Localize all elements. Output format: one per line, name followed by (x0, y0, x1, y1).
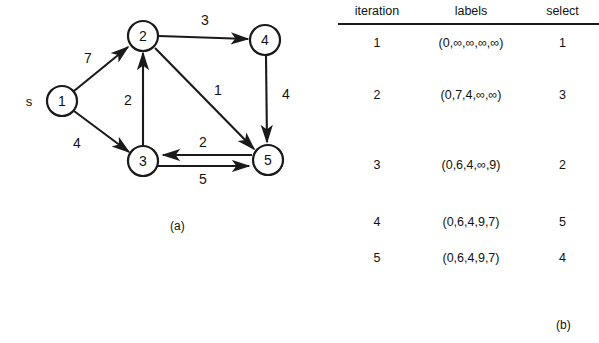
table-row: 3 (0,6,4,∞,9) 2 (338, 130, 599, 200)
cell-select: 3 (526, 60, 599, 130)
graph-node-1[interactable]: 1 (47, 86, 77, 116)
graph-node-4-label: 4 (261, 32, 269, 48)
edge-4-to-5 (266, 56, 267, 142)
table-header-row: iteration labels select (338, 4, 599, 24)
directed-graph-diagram: 1 2 3 4 5 7 4 2 3 1 4 (0, 0, 310, 215)
graph-node-5-label: 5 (264, 152, 272, 168)
table-head: iteration labels select (338, 4, 599, 24)
table-row: 2 (0,7,4,∞,∞) 3 (338, 60, 599, 130)
edge-1-to-2 (74, 47, 128, 91)
cell-labels: (0,6,4,9,7) (416, 200, 526, 243)
figure-b-caption: (b) (556, 318, 571, 332)
cell-labels: (0,7,4,∞,∞) (416, 60, 526, 130)
column-header-labels: labels (416, 4, 526, 24)
cell-labels: (0,6,4,9,7) (416, 243, 526, 273)
cell-iteration: 4 (338, 200, 416, 243)
cell-iteration: 2 (338, 60, 416, 130)
table-row: 1 (0,∞,∞,∞,∞) 1 (338, 24, 599, 60)
edge-weight-3-5: 5 (199, 171, 207, 187)
edge-weight-3-2: 2 (124, 92, 132, 108)
edge-weight-2-4: 3 (201, 12, 209, 28)
graph-node-2[interactable]: 2 (128, 21, 158, 51)
cell-iteration: 5 (338, 243, 416, 273)
graph-edges-layer (74, 36, 267, 166)
edge-1-to-3 (74, 111, 129, 152)
graph-figure-panel: 1 2 3 4 5 7 4 2 3 1 4 (0, 0, 310, 343)
graph-node-5[interactable]: 5 (253, 145, 283, 175)
table-body: 1 (0,∞,∞,∞,∞) 1 2 (0,7,4,∞,∞) 3 3 (0,6,4… (338, 24, 599, 273)
edge-weight-2-5: 1 (214, 82, 222, 98)
iteration-table-panel: iteration labels select 1 (0,∞,∞,∞,∞) 1 … (311, 0, 599, 343)
edge-weight-5-3: 2 (199, 134, 207, 150)
cell-select: 2 (526, 130, 599, 200)
graph-nodes-layer: 1 2 3 4 5 (47, 21, 283, 176)
cell-iteration: 1 (338, 24, 416, 60)
cell-labels: (0,∞,∞,∞,∞) (416, 24, 526, 60)
source-node-tag: s (26, 94, 33, 109)
table-row: 4 (0,6,4,9,7) 5 (338, 200, 599, 243)
cell-select: 5 (526, 200, 599, 243)
graph-node-1-label: 1 (58, 93, 66, 109)
cell-select: 4 (526, 243, 599, 273)
dijkstra-iteration-table: iteration labels select 1 (0,∞,∞,∞,∞) 1 … (338, 4, 599, 273)
edge-2-to-4 (159, 36, 248, 39)
edge-weight-1-2: 7 (84, 50, 92, 66)
cell-select: 1 (526, 24, 599, 60)
edge-weight-4-5: 4 (282, 86, 290, 102)
column-header-select: select (526, 4, 599, 24)
cell-iteration: 3 (338, 130, 416, 200)
figure-a-caption: (a) (170, 219, 185, 233)
graph-node-3-label: 3 (139, 153, 147, 169)
edge-weight-1-3: 4 (73, 135, 81, 151)
graph-node-2-label: 2 (139, 28, 147, 44)
cell-labels: (0,6,4,∞,9) (416, 130, 526, 200)
graph-node-3[interactable]: 3 (128, 146, 158, 176)
column-header-iteration: iteration (338, 4, 416, 24)
graph-node-4[interactable]: 4 (250, 25, 280, 55)
table-row: 5 (0,6,4,9,7) 4 (338, 243, 599, 273)
